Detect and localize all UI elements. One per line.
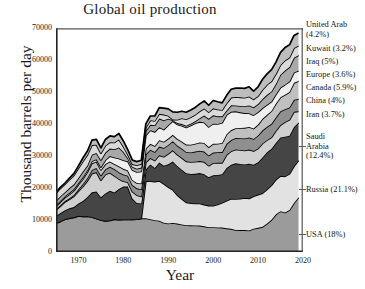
- legend-item-europe: Europe (3.6%): [306, 70, 365, 80]
- legend-label-line: Iran (3.7%): [306, 110, 365, 120]
- y-tick-label: 60000: [0, 55, 52, 64]
- legend-label-line: Russia (21.1%): [306, 185, 365, 195]
- plot-area: [56, 28, 303, 252]
- y-tick-label: 20000: [0, 183, 52, 192]
- x-tick-label: 2000: [191, 256, 235, 265]
- legend-label-line: Kuwait (3.2%): [306, 44, 365, 54]
- legend-leader-usa: [299, 234, 306, 235]
- x-tick-label: 1980: [101, 256, 145, 265]
- legend-item-united-arab: United Arab(4.2%): [306, 20, 365, 39]
- x-tick-label: 1990: [146, 256, 190, 265]
- legend-item-china: China (4%): [306, 96, 365, 106]
- y-tick-label: 0: [0, 247, 52, 256]
- legend-label-line: (4.2%): [306, 30, 365, 40]
- legend-label-line: Europe (3.6%): [306, 70, 365, 80]
- chart-title: Global oil production: [0, 1, 300, 18]
- y-tick-label: 70000: [0, 23, 52, 32]
- legend-label-line: United Arab: [306, 20, 365, 30]
- y-tick-label: 40000: [0, 119, 52, 128]
- legend-label-line: USA (18%): [306, 230, 365, 240]
- y-tick-label: 30000: [0, 151, 52, 160]
- legend-label-line: Canada (5.9%): [306, 83, 365, 93]
- stacked-area-svg: [56, 28, 303, 252]
- legend-leader-saudi-arabia: [299, 146, 306, 147]
- x-axis-label: Year: [56, 266, 304, 284]
- x-tick-label: 2020: [281, 256, 325, 265]
- legend-item-usa: USA (18%): [306, 230, 365, 240]
- y-tick-label: 50000: [0, 87, 52, 96]
- legend-item-kuwait: Kuwait (3.2%): [306, 44, 365, 54]
- x-tick-label: 1970: [56, 256, 100, 265]
- legend-leader-russia: [299, 189, 306, 190]
- legend-label-line: (12.4%): [306, 151, 365, 161]
- legend-item-canada: Canada (5.9%): [306, 83, 365, 93]
- legend-item-iraq: Iraq (5%): [306, 57, 365, 67]
- legend-item-russia: Russia (21.1%): [306, 185, 365, 195]
- legend-label-line: Iraq (5%): [306, 57, 365, 67]
- legend-item-saudi-arabia: SaudiArabia(12.4%): [306, 132, 365, 161]
- legend-label-line: Saudi: [306, 132, 365, 142]
- x-tick-label: 2010: [236, 256, 280, 265]
- legend-label-line: Arabia: [306, 142, 365, 152]
- y-tick-label: 10000: [0, 215, 52, 224]
- legend-item-iran: Iran (3.7%): [306, 110, 365, 120]
- legend-label-line: China (4%): [306, 96, 365, 106]
- chart-root: Global oil production Thousand barrels p…: [0, 0, 365, 289]
